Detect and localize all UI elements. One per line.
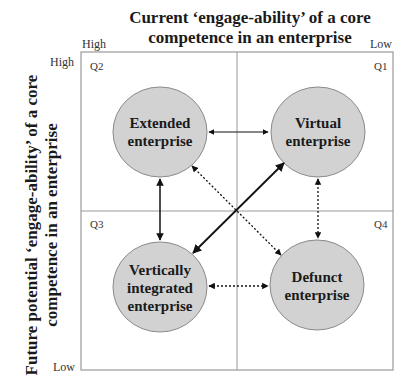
node-text-line: Vertically [127,261,193,279]
node-text-line: enterprise [285,286,350,304]
edge-vertical-virtual [193,163,284,253]
quadrant-label-q1: Q1 [374,60,387,72]
node-defunct-enterprise: Defunct enterprise [285,268,350,304]
node-text-line: Extended [128,114,193,132]
quadrant-label-q2: Q2 [90,60,103,72]
node-text-line: Defunct [285,268,350,286]
quadrant-diagram [0,0,415,390]
node-vertically-integrated-enterprise: Vertically integrated enterprise [127,261,193,315]
quadrant-label-q3: Q3 [90,218,103,230]
node-text-line: enterprise [128,132,193,150]
node-text-line: Virtual [286,114,351,132]
node-extended-enterprise: Extended enterprise [128,114,193,150]
node-text-line: integrated [127,279,193,297]
node-text-line: enterprise [286,132,351,150]
node-text-line: enterprise [127,297,193,315]
quadrant-label-q4: Q4 [374,218,387,230]
node-virtual-enterprise: Virtual enterprise [286,114,351,150]
